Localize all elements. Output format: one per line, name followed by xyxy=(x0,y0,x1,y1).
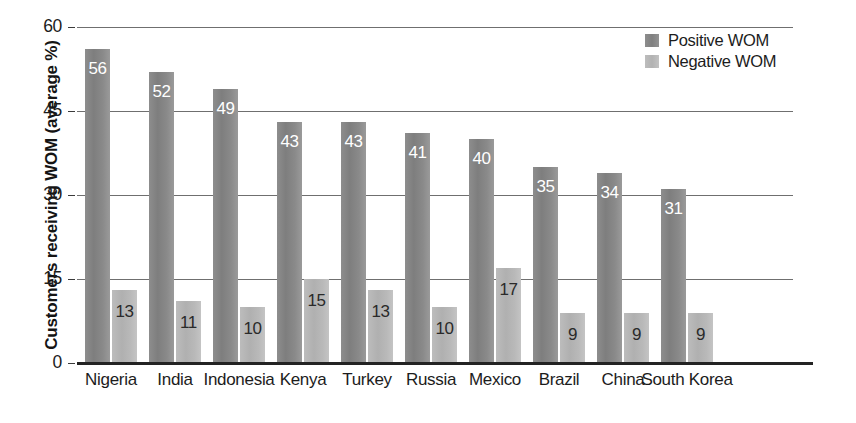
bar-positive[interactable]: 43 xyxy=(277,122,302,363)
legend-label: Positive WOM xyxy=(668,31,769,50)
bar-value-label: 35 xyxy=(533,177,558,197)
bar-value-label: 13 xyxy=(112,302,137,322)
bar-value-label: 17 xyxy=(496,280,521,300)
bar-positive[interactable]: 40 xyxy=(469,139,494,363)
bar-value-label: 15 xyxy=(304,291,329,311)
x-axis-line xyxy=(77,362,813,365)
legend-swatch-positive xyxy=(645,34,659,47)
bar-value-label: 52 xyxy=(149,82,174,102)
bar-value-label: 56 xyxy=(85,59,110,79)
y-tick-mark xyxy=(68,111,75,112)
bar-positive[interactable]: 43 xyxy=(341,122,366,363)
bar-value-label: 9 xyxy=(624,325,649,345)
bar-value-label: 40 xyxy=(469,149,494,169)
bar-value-label: 43 xyxy=(341,132,366,152)
legend-swatch-negative xyxy=(645,55,659,68)
bar-value-label: 49 xyxy=(213,99,238,119)
legend-item[interactable]: Negative WOM xyxy=(645,51,835,72)
bar-positive[interactable]: 49 xyxy=(213,89,238,363)
chart-legend: Positive WOMNegative WOM xyxy=(645,30,835,72)
y-tick-mark xyxy=(68,27,75,28)
bar-value-label: 9 xyxy=(560,325,585,345)
bar-negative[interactable]: 10 xyxy=(240,307,265,363)
bar-positive[interactable]: 31 xyxy=(661,189,686,363)
y-tick-label: 45 xyxy=(22,100,62,121)
bar-positive[interactable]: 41 xyxy=(405,133,430,363)
bar-value-label: 31 xyxy=(661,199,686,219)
bar-negative[interactable]: 13 xyxy=(112,290,137,363)
y-tick-label: 15 xyxy=(22,268,62,289)
bar-positive[interactable]: 35 xyxy=(533,167,558,363)
x-axis-label: South Korea xyxy=(627,370,747,390)
bar-negative[interactable]: 9 xyxy=(624,313,649,363)
bar-negative[interactable]: 9 xyxy=(688,313,713,363)
y-tick-mark xyxy=(68,195,75,196)
bar-negative[interactable]: 11 xyxy=(176,301,201,363)
bar-value-label: 13 xyxy=(368,302,393,322)
gridline xyxy=(77,27,793,28)
legend-label: Negative WOM xyxy=(668,52,776,71)
bar-negative[interactable]: 10 xyxy=(432,307,457,363)
bar-chart: Customers receiving WOM (average %) 0153… xyxy=(0,0,856,423)
bar-negative[interactable]: 13 xyxy=(368,290,393,363)
bar-value-label: 41 xyxy=(405,143,430,163)
legend-item[interactable]: Positive WOM xyxy=(645,30,835,51)
bar-positive[interactable]: 56 xyxy=(85,49,110,363)
bar-value-label: 43 xyxy=(277,132,302,152)
gridline xyxy=(77,111,793,112)
bar-negative[interactable]: 9 xyxy=(560,313,585,363)
bar-value-label: 10 xyxy=(432,319,457,339)
plot-area: 5613521149104315431341104017359349319 xyxy=(77,27,793,363)
bar-negative[interactable]: 15 xyxy=(304,279,329,363)
bar-value-label: 11 xyxy=(176,313,201,333)
y-tick-mark xyxy=(68,363,75,364)
y-tick-label: 30 xyxy=(22,184,62,205)
bar-value-label: 34 xyxy=(597,183,622,203)
y-tick-mark xyxy=(68,279,75,280)
bar-value-label: 9 xyxy=(688,325,713,345)
bar-positive[interactable]: 52 xyxy=(149,72,174,363)
bar-value-label: 10 xyxy=(240,319,265,339)
bar-negative[interactable]: 17 xyxy=(496,268,521,363)
bar-positive[interactable]: 34 xyxy=(597,173,622,363)
y-tick-label: 60 xyxy=(22,16,62,37)
